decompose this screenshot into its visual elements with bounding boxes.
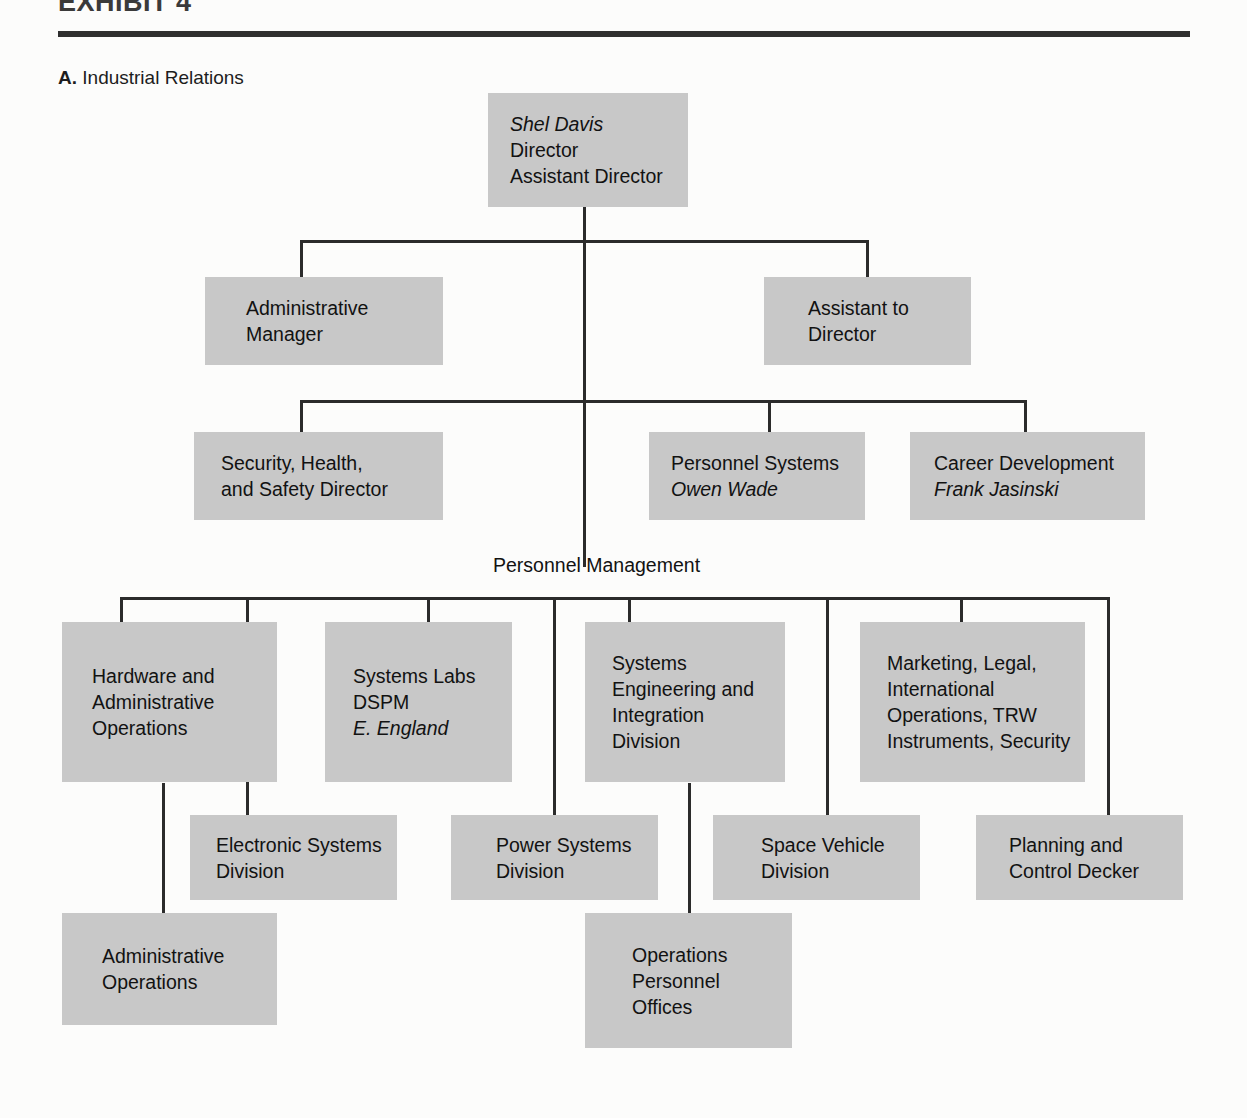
node-systems-labs-line-1: Systems Labs	[353, 663, 512, 689]
node-marketing-legal-line-3: Operations, TRW	[887, 702, 1085, 728]
node-marketing-legal[interactable]: Marketing, Legal, International Operatio…	[860, 622, 1085, 782]
node-power-systems-line-2: Division	[496, 858, 658, 884]
exhibit-page: EXHIBIT 4 A. Industrial Relations Shel D…	[0, 0, 1247, 1118]
node-operations-personnel-offices-line-3: Offices	[632, 994, 792, 1020]
node-systems-engineering-line-2: Engineering and	[612, 676, 785, 702]
connector-drop-marketing-legal	[960, 597, 963, 622]
node-systems-labs-line-2: DSPM	[353, 689, 512, 715]
connector-level2-bar	[300, 240, 869, 243]
node-personnel-systems[interactable]: Personnel Systems Owen Wade	[649, 432, 865, 520]
node-director-line-3: Assistant Director	[510, 163, 688, 189]
node-operations-personnel-offices-line-2: Personnel	[632, 968, 792, 994]
node-career-development-line-1: Career Development	[934, 450, 1145, 476]
connector-drop-systems-labs	[427, 597, 430, 622]
node-hardware-admin-ops-line-3: Operations	[92, 715, 277, 741]
node-operations-personnel-offices[interactable]: Operations Personnel Offices	[585, 913, 792, 1048]
node-assistant-to-director-line-1: Assistant to	[808, 295, 971, 321]
node-space-vehicle-line-2: Division	[761, 858, 920, 884]
section-label: A. Industrial Relations	[58, 67, 244, 89]
section-title: Industrial Relations	[82, 67, 244, 88]
connector-drop-administrative-operations	[162, 783, 165, 913]
node-marketing-legal-line-4: Instruments, Security	[887, 728, 1085, 754]
node-administrative-manager-line-2: Manager	[246, 321, 443, 347]
node-planning-control-line-1: Planning and	[1009, 832, 1183, 858]
node-power-systems-line-1: Power Systems	[496, 832, 658, 858]
node-assistant-to-director-line-2: Director	[808, 321, 971, 347]
connector-drop-assistant-to-director	[866, 240, 869, 278]
node-systems-engineering-line-1: Systems	[612, 650, 785, 676]
node-hardware-admin-ops-line-1: Hardware and	[92, 663, 277, 689]
connector-drop-planning-control	[1107, 597, 1110, 815]
connector-drop-systems-engineering	[628, 597, 631, 622]
node-security-health-safety[interactable]: Security, Health, and Safety Director	[194, 432, 443, 520]
node-marketing-legal-line-2: International	[887, 676, 1085, 702]
node-systems-labs[interactable]: Systems Labs DSPM E. England	[325, 622, 512, 782]
node-space-vehicle-line-1: Space Vehicle	[761, 832, 920, 858]
node-assistant-to-director[interactable]: Assistant to Director	[764, 277, 971, 365]
connector-drop-personnel-systems	[768, 400, 771, 433]
node-director-line-1: Shel Davis	[510, 111, 688, 137]
node-administrative-manager-line-1: Administrative	[246, 295, 443, 321]
connector-level3-bar	[300, 400, 1027, 403]
node-hardware-admin-ops-line-2: Administrative	[92, 689, 277, 715]
node-systems-labs-line-3: E. England	[353, 715, 512, 741]
header-divider-rule	[58, 31, 1190, 37]
node-planning-control[interactable]: Planning and Control Decker	[976, 815, 1183, 900]
node-marketing-legal-line-1: Marketing, Legal,	[887, 650, 1085, 676]
node-administrative-operations[interactable]: Administrative Operations	[62, 913, 277, 1025]
node-planning-control-line-2: Control Decker	[1009, 858, 1183, 884]
exhibit-title: EXHIBIT 4	[58, 0, 192, 18]
node-security-health-safety-line-1: Security, Health,	[221, 450, 443, 476]
node-electronic-systems-line-2: Division	[216, 858, 397, 884]
label-personnel-management: Personnel Management	[493, 552, 700, 578]
connector-director-stem	[583, 207, 586, 567]
node-power-systems[interactable]: Power Systems Division	[451, 815, 658, 900]
node-space-vehicle[interactable]: Space Vehicle Division	[713, 815, 920, 900]
node-career-development[interactable]: Career Development Frank Jasinski	[910, 432, 1145, 520]
connector-drop-operations-personnel-offices	[688, 783, 691, 913]
node-systems-engineering-line-4: Division	[612, 728, 785, 754]
connector-drop-hardware-admin-ops	[120, 597, 123, 622]
node-career-development-line-2: Frank Jasinski	[934, 476, 1145, 502]
node-personnel-systems-line-1: Personnel Systems	[671, 450, 865, 476]
node-security-health-safety-line-2: and Safety Director	[221, 476, 443, 502]
node-administrative-manager[interactable]: Administrative Manager	[205, 277, 443, 365]
node-systems-engineering[interactable]: Systems Engineering and Integration Divi…	[585, 622, 785, 782]
node-operations-personnel-offices-line-1: Operations	[632, 942, 792, 968]
node-director-line-2: Director	[510, 137, 688, 163]
node-personnel-systems-line-2: Owen Wade	[671, 476, 865, 502]
node-director[interactable]: Shel Davis Director Assistant Director	[488, 93, 688, 207]
node-administrative-operations-line-1: Administrative	[102, 943, 277, 969]
connector-drop-career-development	[1024, 400, 1027, 433]
connector-drop-power-systems	[553, 597, 556, 815]
node-electronic-systems[interactable]: Electronic Systems Division	[190, 815, 397, 900]
node-electronic-systems-line-1: Electronic Systems	[216, 832, 397, 858]
connector-drop-administrative-manager	[300, 240, 303, 278]
connector-drop-security-health-safety	[300, 400, 303, 433]
section-letter: A.	[58, 67, 77, 88]
node-administrative-operations-line-2: Operations	[102, 969, 277, 995]
node-hardware-admin-ops[interactable]: Hardware and Administrative Operations	[62, 622, 277, 782]
connector-drop-space-vehicle	[826, 597, 829, 815]
node-systems-engineering-line-3: Integration	[612, 702, 785, 728]
